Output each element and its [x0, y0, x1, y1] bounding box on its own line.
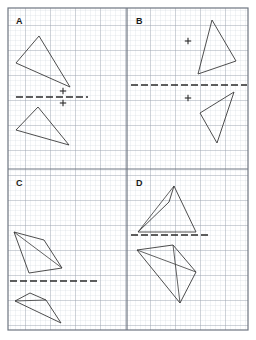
panel-label-d: D [136, 178, 143, 188]
worksheet-sheet: ABCD [0, 0, 256, 340]
panel-label-c: C [16, 178, 23, 188]
worksheet-figure: ABCD [0, 0, 256, 340]
panel-label-b: B [136, 16, 143, 26]
panel-label-a: A [16, 16, 23, 26]
